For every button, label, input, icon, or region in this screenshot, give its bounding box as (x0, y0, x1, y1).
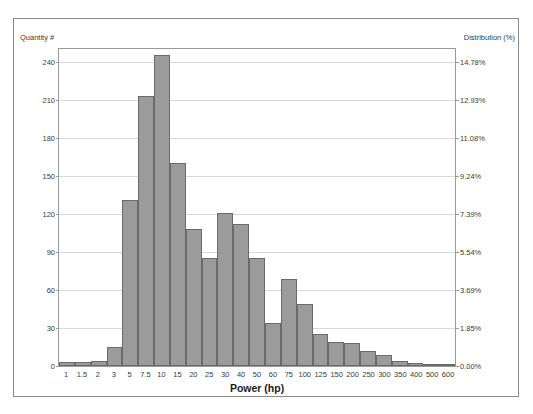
y-tick-label-right: 1.85% (460, 323, 481, 332)
y-tick-mark-right (455, 214, 459, 215)
x-tick-label: 20 (185, 369, 201, 381)
y-axis-left-label: Quantity # (20, 33, 54, 42)
x-tick-label: 30 (217, 369, 233, 381)
bar[interactable] (154, 55, 170, 366)
bar[interactable] (170, 163, 186, 366)
y-tick-label-right: 3.69% (460, 285, 481, 294)
x-tick-label: 500 (424, 369, 440, 381)
chart-root: Quantity # Distribution (%) 00.00%301.85… (0, 0, 533, 414)
x-tick-label: 100 (297, 369, 313, 381)
y-tick-label-left: 0 (51, 362, 55, 371)
y-tick-label-right: 5.54% (460, 247, 481, 256)
x-tick-label: 50 (249, 369, 265, 381)
x-tick-label: 7.5 (138, 369, 154, 381)
y-tick-label-left: 210 (42, 95, 55, 104)
y-tick-mark-right (455, 138, 459, 139)
y-tick-label-left: 180 (42, 133, 55, 142)
x-tick-label: 60 (265, 369, 281, 381)
y-tick-label-left: 240 (42, 57, 55, 66)
x-tick-label: 10 (154, 369, 170, 381)
y-tick-label-right: 7.39% (460, 209, 481, 218)
x-axis-ticks: 11.52357.5101520253040506075100125150200… (58, 369, 456, 381)
y-tick-label-right: 11.08% (460, 133, 485, 142)
bar[interactable] (313, 334, 329, 366)
y-tick-label-right: 0.00% (460, 362, 481, 371)
x-tick-label: 125 (313, 369, 329, 381)
bar[interactable] (122, 200, 138, 366)
bar[interactable] (439, 364, 455, 366)
y-tick-mark-right (455, 252, 459, 253)
bar[interactable] (281, 279, 297, 366)
plot-area: 00.00%301.85%603.69%905.54%1207.39%1509.… (58, 48, 456, 367)
y-tick-mark-left (56, 366, 59, 367)
x-tick-label: 1 (58, 369, 74, 381)
y-tick-mark-right (455, 366, 459, 367)
x-tick-label: 200 (345, 369, 361, 381)
y-tick-label-right: 12.93% (460, 95, 485, 104)
bar[interactable] (249, 258, 265, 366)
y-tick-mark-right (455, 328, 459, 329)
x-tick-label: 300 (376, 369, 392, 381)
y-tick-mark-right (455, 290, 459, 291)
bar[interactable] (423, 364, 439, 366)
y-tick-label-left: 60 (47, 285, 55, 294)
x-tick-label: 150 (329, 369, 345, 381)
y-tick-mark-right (455, 100, 459, 101)
y-tick-label-left: 90 (47, 247, 55, 256)
bar[interactable] (59, 362, 75, 366)
bar[interactable] (344, 343, 360, 366)
bar[interactable] (107, 347, 123, 366)
y-tick-mark-right (455, 176, 459, 177)
bar[interactable] (138, 96, 154, 366)
bar[interactable] (75, 362, 91, 366)
bar[interactable] (233, 224, 249, 366)
x-tick-label: 250 (361, 369, 377, 381)
y-axis-right-label: Distribution (%) (464, 33, 515, 42)
bar[interactable] (360, 351, 376, 366)
gridline (59, 366, 455, 367)
bar[interactable] (265, 323, 281, 366)
x-tick-label: 2 (90, 369, 106, 381)
bar[interactable] (376, 355, 392, 366)
bar[interactable] (91, 361, 107, 366)
bar[interactable] (408, 363, 424, 366)
chart-title (0, 0, 533, 4)
bar[interactable] (202, 258, 218, 366)
x-tick-label: 40 (233, 369, 249, 381)
bar[interactable] (392, 361, 408, 366)
bar-series (59, 49, 455, 366)
y-tick-label-left: 30 (47, 323, 55, 332)
y-tick-label-left: 120 (42, 209, 55, 218)
bar[interactable] (297, 304, 313, 366)
x-tick-label: 350 (392, 369, 408, 381)
x-tick-label: 600 (440, 369, 456, 381)
y-tick-label-right: 9.24% (460, 171, 481, 180)
y-tick-mark-right (455, 62, 459, 63)
x-tick-label: 1.5 (74, 369, 90, 381)
x-tick-label: 75 (281, 369, 297, 381)
bar[interactable] (217, 213, 233, 366)
y-tick-label-left: 150 (42, 171, 55, 180)
x-tick-label: 3 (106, 369, 122, 381)
y-tick-label-right: 14.78% (460, 57, 485, 66)
bar[interactable] (328, 342, 344, 366)
x-tick-label: 15 (169, 369, 185, 381)
x-tick-label: 5 (122, 369, 138, 381)
bar[interactable] (186, 229, 202, 366)
x-axis-title: Power (hp) (58, 382, 456, 394)
x-tick-label: 25 (201, 369, 217, 381)
x-tick-label: 400 (408, 369, 424, 381)
